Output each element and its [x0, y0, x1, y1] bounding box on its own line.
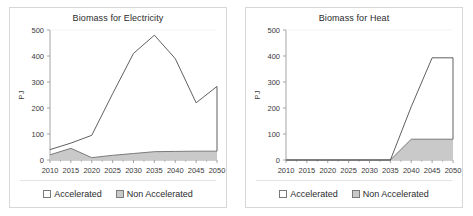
- svg-text:400: 400: [267, 52, 280, 61]
- svg-text:PJ: PJ: [17, 90, 26, 99]
- legend-item-accelerated[interactable]: Accelerated: [279, 189, 338, 199]
- svg-text:200: 200: [31, 104, 44, 113]
- svg-text:2045: 2045: [188, 166, 205, 175]
- svg-text:300: 300: [31, 78, 44, 87]
- svg-text:300: 300: [267, 78, 280, 87]
- svg-text:2040: 2040: [167, 166, 184, 175]
- svg-text:2040: 2040: [403, 166, 420, 175]
- svg-text:2020: 2020: [319, 166, 336, 175]
- svg-text:200: 200: [267, 104, 280, 113]
- chart-panel-electricity: Biomass for Electricity 0100200300400500…: [0, 0, 236, 216]
- svg-text:PJ: PJ: [253, 90, 262, 99]
- svg-text:2025: 2025: [340, 166, 357, 175]
- svg-text:2045: 2045: [424, 166, 441, 175]
- legend-swatch-non-accelerated-icon: [352, 190, 360, 198]
- legend-divider: [20, 180, 216, 181]
- svg-text:2035: 2035: [382, 166, 399, 175]
- legend-swatch-non-accelerated-icon: [116, 190, 124, 198]
- legend-label-accelerated: Accelerated: [290, 189, 338, 199]
- figure-container: Biomass for Electricity 0100200300400500…: [0, 0, 473, 216]
- chart-frame-electricity: Biomass for Electricity 0100200300400500…: [9, 7, 227, 208]
- legend-label-non-accelerated: Non Accelerated: [363, 189, 429, 199]
- legend-label-non-accelerated: Non Accelerated: [127, 189, 193, 199]
- svg-text:2015: 2015: [63, 166, 80, 175]
- svg-text:2050: 2050: [209, 166, 226, 175]
- svg-text:100: 100: [267, 130, 280, 139]
- svg-text:2010: 2010: [278, 166, 295, 175]
- svg-text:0: 0: [276, 156, 280, 165]
- svg-text:2050: 2050: [445, 166, 462, 175]
- legend-item-non-accelerated[interactable]: Non Accelerated: [352, 189, 429, 199]
- legend-item-non-accelerated[interactable]: Non Accelerated: [116, 189, 193, 199]
- svg-text:2035: 2035: [146, 166, 163, 175]
- legend-swatch-accelerated-icon: [43, 190, 51, 198]
- svg-text:0: 0: [40, 156, 44, 165]
- chart-legend-heat: Accelerated Non Accelerated: [246, 189, 462, 199]
- svg-text:500: 500: [31, 26, 44, 35]
- svg-text:400: 400: [31, 52, 44, 61]
- legend-swatch-accelerated-icon: [279, 190, 287, 198]
- svg-text:2020: 2020: [83, 166, 100, 175]
- legend-item-accelerated[interactable]: Accelerated: [43, 189, 102, 199]
- svg-text:100: 100: [31, 130, 44, 139]
- chart-panel-heat: Biomass for Heat 01002003004005002010201…: [236, 0, 472, 216]
- svg-text:2030: 2030: [361, 166, 378, 175]
- legend-divider: [256, 180, 452, 181]
- legend-label-accelerated: Accelerated: [54, 189, 102, 199]
- plot-area-electricity: 0100200300400500201020152020202520302035…: [10, 8, 226, 207]
- svg-text:2010: 2010: [42, 166, 59, 175]
- chart-legend-electricity: Accelerated Non Accelerated: [10, 189, 226, 199]
- svg-text:500: 500: [267, 26, 280, 35]
- chart-frame-heat: Biomass for Heat 01002003004005002010201…: [245, 7, 463, 208]
- svg-text:2015: 2015: [299, 166, 316, 175]
- svg-text:2025: 2025: [104, 166, 121, 175]
- svg-text:2030: 2030: [125, 166, 142, 175]
- plot-area-heat: 0100200300400500201020152020202520302035…: [246, 8, 462, 207]
